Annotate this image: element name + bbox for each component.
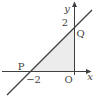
line-pq bbox=[7, 10, 92, 95]
coordinate-figure: y x O 2 Q P −2 bbox=[0, 0, 93, 100]
y-axis-arrow-icon bbox=[72, 2, 77, 8]
x-axis-label: x bbox=[87, 71, 93, 82]
point-q-label: Q bbox=[76, 28, 84, 39]
y-intercept-tick-label: 2 bbox=[62, 17, 68, 28]
y-axis-label: y bbox=[63, 3, 70, 14]
origin-label: O bbox=[64, 74, 72, 85]
x-intercept-tick-label: −2 bbox=[26, 74, 41, 85]
point-p-label: P bbox=[18, 61, 25, 72]
coordinate-plane-svg: y x O 2 Q P −2 bbox=[0, 0, 93, 100]
